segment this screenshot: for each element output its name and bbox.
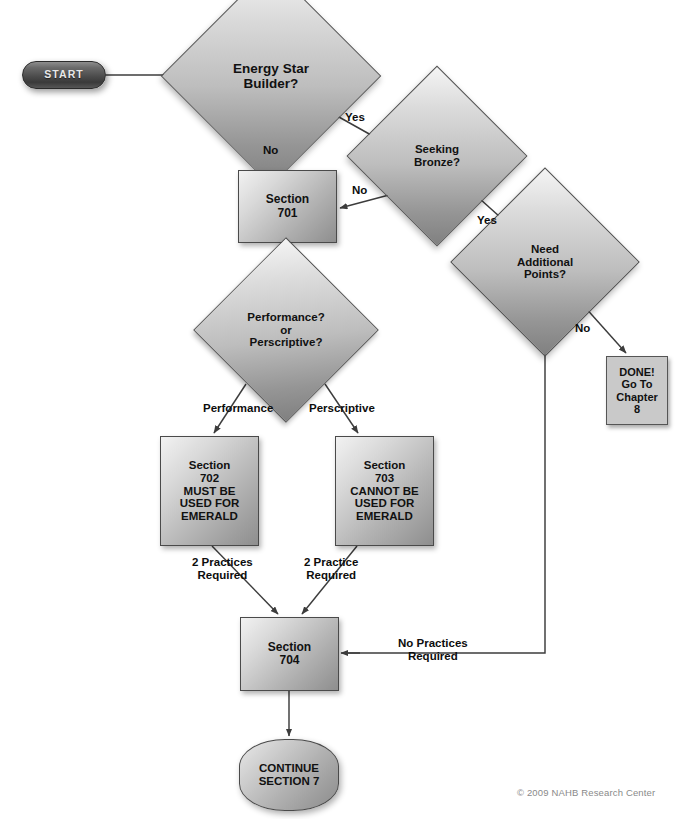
- node-seeking-bronze-label: Seeking Bronze?: [373, 143, 501, 169]
- edge-label-seeking-bronze-yes: Yes: [477, 214, 497, 227]
- edge-label-seeking-bronze-no: No: [352, 184, 367, 197]
- node-section-704[interactable]: Section 704: [240, 617, 339, 691]
- node-energy-star-builder[interactable]: Energy Star Builder?: [193, 0, 349, 154]
- node-section-703[interactable]: Section 703 CANNOT BE USED FOR EMERALD: [335, 436, 434, 546]
- node-start-label: START: [44, 69, 84, 81]
- node-performance-or-perscriptive[interactable]: Performance? or Perscriptive?: [204, 265, 368, 395]
- node-done-go-to-chapter-8[interactable]: DONE! Go To Chapter 8: [606, 356, 668, 425]
- node-section-702[interactable]: Section 702 MUST BE USED FOR EMERALD: [160, 436, 259, 546]
- edge-label-two-practice-required: 2 Practice Required: [304, 556, 358, 582]
- node-need-additional-points[interactable]: Need Additional Points?: [478, 195, 612, 329]
- edge-label-two-practices-required: 2 Practices Required: [192, 556, 253, 582]
- node-performance-or-perscriptive-label: Performance? or Perscriptive?: [204, 311, 368, 350]
- node-section-704-label: Section 704: [266, 641, 313, 668]
- edge-label-performance: Performance: [203, 402, 273, 415]
- node-continue-label: CONTINUE SECTION 7: [259, 762, 320, 788]
- flowchart-canvas: START Energy Star Builder? Seeking Bronz…: [0, 0, 691, 819]
- edge-label-need-points-no: No: [575, 322, 590, 335]
- edge-label-energy-star-yes: Yes: [345, 111, 365, 124]
- node-section-701[interactable]: Section 701: [238, 170, 337, 243]
- node-energy-star-builder-label: Energy Star Builder?: [193, 61, 349, 91]
- edge-label-no-practices-required: No Practices Required: [398, 637, 468, 663]
- node-start[interactable]: START: [22, 61, 106, 89]
- node-section-701-label: Section 701: [264, 193, 311, 220]
- copyright-notice: © 2009 NAHB Research Center: [517, 787, 655, 798]
- node-section-702-label: Section 702 MUST BE USED FOR EMERALD: [178, 459, 241, 523]
- node-need-additional-points-label: Need Additional Points?: [478, 243, 612, 282]
- node-continue-section-7[interactable]: CONTINUE SECTION 7: [239, 739, 339, 811]
- edge-label-perscriptive: Perscriptive: [309, 402, 375, 415]
- edge-label-energy-star-no: No: [263, 144, 278, 157]
- node-section-703-label: Section 703 CANNOT BE USED FOR EMERALD: [348, 459, 420, 523]
- node-done-label: DONE! Go To Chapter 8: [616, 366, 658, 415]
